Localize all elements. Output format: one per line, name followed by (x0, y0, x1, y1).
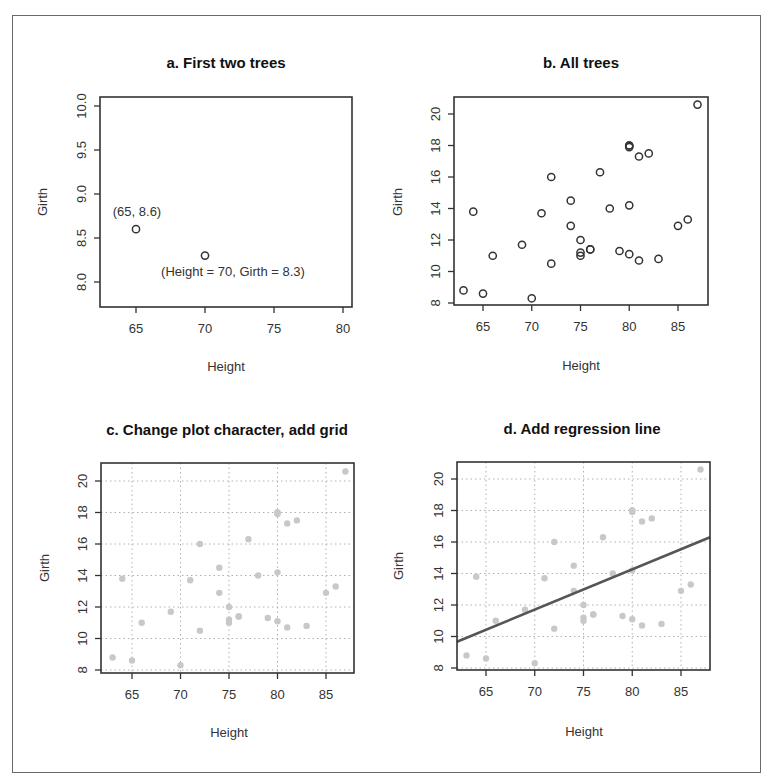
y-tick-label: 10 (75, 631, 90, 645)
panel-d: d. Add regression line Height Girth 6570… (391, 420, 710, 739)
panel-d-xlabel: Height (565, 724, 603, 739)
plot-box (101, 463, 354, 673)
data-point (587, 246, 594, 253)
panel-a-annotation-point1: (65, 8.6) (113, 204, 161, 219)
data-point (489, 252, 496, 259)
panel-b-title: b. All trees (543, 54, 619, 71)
data-point (473, 573, 479, 579)
data-point (333, 583, 339, 589)
y-tick-label: 10.0 (74, 93, 89, 118)
y-tick-label: 10 (431, 629, 446, 643)
data-point (532, 660, 538, 666)
data-point (688, 581, 694, 587)
data-point (226, 604, 232, 610)
data-point (129, 657, 135, 663)
data-point (255, 572, 261, 578)
x-tick-label: 65 (129, 321, 143, 336)
data-point (635, 153, 642, 160)
data-point (323, 590, 329, 596)
data-point (274, 569, 280, 575)
data-point (139, 620, 145, 626)
y-tick-label: 16 (75, 537, 90, 551)
panel-c-plot: 65707580858101214161820 (75, 463, 354, 702)
y-tick-label: 8.0 (74, 273, 89, 291)
panel-a-ylabel: Girth (35, 188, 50, 216)
data-point (168, 609, 174, 615)
data-point (639, 622, 645, 628)
data-point (541, 575, 547, 581)
y-tick-label: 12 (428, 233, 443, 247)
panel-a-title: a. First two trees (166, 54, 285, 71)
x-tick-label: 75 (222, 687, 236, 702)
data-point (678, 588, 684, 594)
y-tick-label: 8 (428, 299, 443, 306)
data-point (274, 618, 280, 624)
data-point (538, 210, 545, 217)
y-tick-label: 20 (75, 474, 90, 488)
panel-b-plot: 65707580858101214161820 (428, 97, 708, 334)
data-point (216, 590, 222, 596)
data-point (694, 101, 701, 108)
data-point (655, 255, 662, 262)
x-tick-label: 65 (476, 319, 490, 334)
data-point (649, 515, 655, 521)
panel-b-ylabel: Girth (390, 188, 405, 216)
data-point (245, 536, 251, 542)
x-tick-label: 85 (674, 684, 688, 699)
data-point (577, 236, 584, 243)
data-point (132, 226, 139, 233)
data-point (626, 251, 633, 258)
y-tick-label: 18 (75, 505, 90, 519)
figure-canvas: a. First two trees Height Girth (65, 8.6… (0, 0, 772, 784)
y-tick-label: 10 (428, 264, 443, 278)
x-tick-label: 70 (173, 687, 187, 702)
x-tick-label: 70 (525, 319, 539, 334)
data-point (580, 602, 586, 608)
y-tick-label: 18 (428, 138, 443, 152)
y-tick-label: 8 (75, 666, 90, 673)
y-tick-label: 20 (428, 107, 443, 121)
panel-b-xlabel: Height (562, 358, 600, 373)
x-tick-label: 75 (267, 321, 281, 336)
data-point (197, 627, 203, 633)
data-point (119, 575, 125, 581)
x-tick-label: 85 (671, 319, 685, 334)
panel-a-xlabel: Height (207, 359, 245, 374)
data-point (294, 517, 300, 523)
y-tick-label: 16 (431, 535, 446, 549)
data-point (284, 520, 290, 526)
data-point (303, 623, 309, 629)
y-tick-label: 12 (75, 600, 90, 614)
data-point (518, 241, 525, 248)
panel-d-ylabel: Girth (391, 552, 406, 580)
data-point (528, 295, 535, 302)
data-point (596, 169, 603, 176)
data-point (201, 252, 208, 259)
data-point (493, 618, 499, 624)
data-point (590, 611, 596, 617)
data-point (236, 613, 242, 619)
data-point (684, 216, 691, 223)
data-point (187, 577, 193, 583)
data-point (567, 222, 574, 229)
data-point (548, 173, 555, 180)
data-point (629, 616, 635, 622)
data-point (284, 624, 290, 630)
y-tick-label: 16 (428, 170, 443, 184)
panel-c: c. Change plot character, add grid Heigh… (37, 421, 354, 740)
y-tick-label: 9.5 (74, 141, 89, 159)
data-point (626, 202, 633, 209)
x-tick-label: 65 (125, 687, 139, 702)
data-point (460, 287, 467, 294)
x-tick-label: 65 (479, 684, 493, 699)
data-point (551, 625, 557, 631)
data-point (479, 290, 486, 297)
x-tick-label: 70 (198, 321, 212, 336)
y-tick-label: 14 (75, 568, 90, 582)
plot-box (454, 97, 708, 305)
x-tick-label: 85 (319, 687, 333, 702)
data-point (463, 652, 469, 658)
data-point (639, 518, 645, 524)
data-point (109, 654, 115, 660)
data-point (567, 197, 574, 204)
